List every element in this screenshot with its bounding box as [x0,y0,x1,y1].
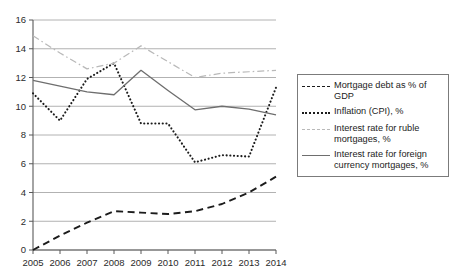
y-tick-label: 16 [15,14,26,25]
x-tick-label: 2007 [76,257,97,268]
legend-item-foreign-currency-mortgage-rate[interactable]: Interest rate for foreign currency mortg… [302,149,444,171]
y-tick-label: 4 [21,187,26,198]
x-tick-label: 2010 [157,257,178,268]
x-tick-label: 2005 [22,257,43,268]
x-tick-label: 2014 [265,257,286,268]
legend-item-mortgage-debt[interactable]: Mortgage debt as % of GDP [302,80,444,102]
y-tick-label: 12 [15,72,26,83]
x-tick-label: 2013 [238,257,259,268]
dashed-line-key [302,81,330,93]
legend-item-inflation[interactable]: Inflation (CPI), % [302,106,444,119]
x-tick-label: 2012 [211,257,232,268]
dotted-line-key [302,107,330,119]
dashdot-line-key [302,124,330,136]
x-tick-label: 2011 [185,257,205,268]
y-tick-label: 2 [21,216,26,227]
legend-label: Inflation (CPI), % [334,106,444,117]
legend-label: Mortgage debt as % of GDP [334,80,444,102]
series-line-2 [33,36,276,78]
legend-item-ruble-mortgage-rate[interactable]: Interest rate for ruble mortgages, % [302,123,444,145]
series-line-0 [33,177,276,250]
line-chart: 0246810121416200520062007200820092010201… [0,0,457,280]
series-line-1 [33,63,276,162]
solid-line-key [302,150,330,162]
series-line-3 [33,70,276,115]
chart-legend: Mortgage debt as % of GDP Inflation (CPI… [297,74,449,177]
x-tick-label: 2009 [130,257,151,268]
y-tick-label: 0 [21,244,26,255]
y-tick-label: 14 [15,43,26,54]
legend-label: Interest rate for foreign currency mortg… [334,149,444,171]
y-tick-label: 6 [21,158,26,169]
legend-label: Interest rate for ruble mortgages, % [334,123,444,145]
x-tick-label: 2008 [103,257,124,268]
x-tick-label: 2006 [49,257,70,268]
y-tick-label: 8 [21,129,26,140]
y-tick-label: 10 [15,101,26,112]
